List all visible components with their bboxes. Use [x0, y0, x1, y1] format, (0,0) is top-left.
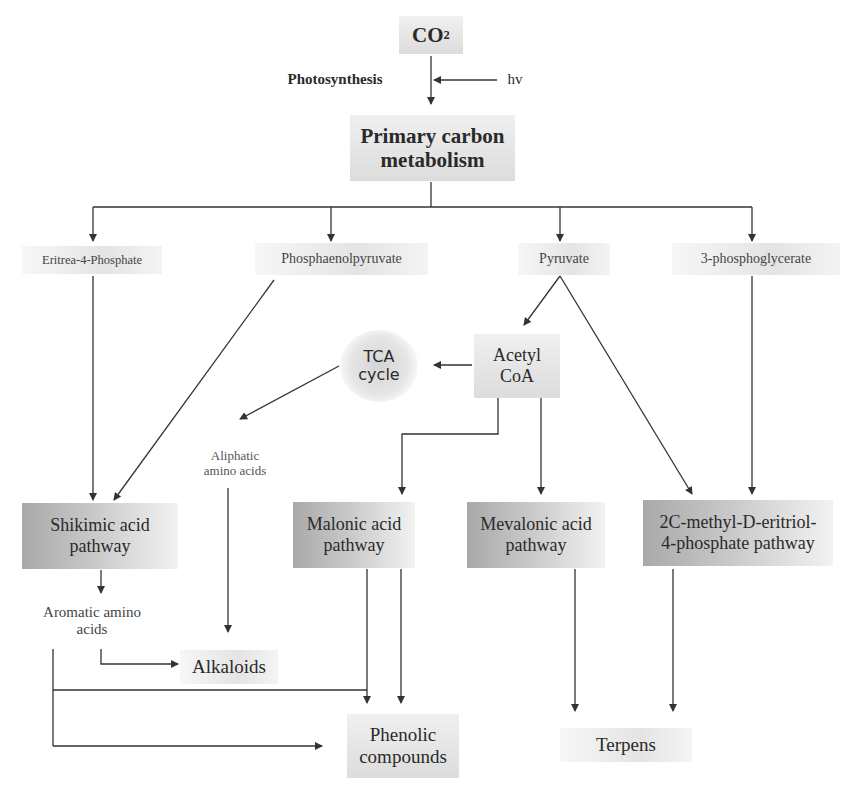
primary-carbon-metabolism-node: Primary carbon metabolism [350, 115, 515, 181]
aromatic-amino-acids-label: Aromatic amino acids [28, 598, 156, 644]
phenolic-compounds-node: Phenolic compounds [347, 714, 459, 778]
pyruvate-node: Pyruvate [518, 243, 610, 275]
eritrea-4-phosphate-node: Eritrea-4-Phosphate [22, 246, 162, 274]
tca-cycle-node: TCA cycle [340, 330, 418, 402]
acetyl-coa-node: Acetyl CoA [474, 334, 560, 398]
photosynthesis-label: Photosynthesis [280, 69, 390, 91]
aliphatic-amino-acids-label: Aliphatic amino acids [195, 443, 275, 485]
mep-pathway-node: 2C-methyl-D-eritriol-4-phosphate pathway [643, 500, 833, 566]
alkaloids-node: Alkaloids [180, 650, 278, 684]
co2-node: CO2 [399, 16, 463, 54]
secondary-metabolism-diagram: CO2 Photosynthesis hv Primary carbon met… [0, 0, 857, 803]
phosphoenolpyruvate-node: Phosphaenolpyruvate [255, 243, 428, 275]
co2-label: CO [412, 23, 444, 47]
co2-subscript: 2 [444, 28, 450, 42]
mevalonic-acid-pathway-node: Mevalonic acid pathway [467, 502, 605, 568]
terpens-node: Terpens [560, 728, 692, 762]
shikimic-acid-pathway-node: Shikimic acid pathway [22, 503, 178, 569]
hv-label: hv [500, 69, 530, 91]
malonic-acid-pathway-node: Malonic acid pathway [293, 502, 415, 568]
3-phosphoglycerate-node: 3-phosphoglycerate [672, 243, 840, 275]
